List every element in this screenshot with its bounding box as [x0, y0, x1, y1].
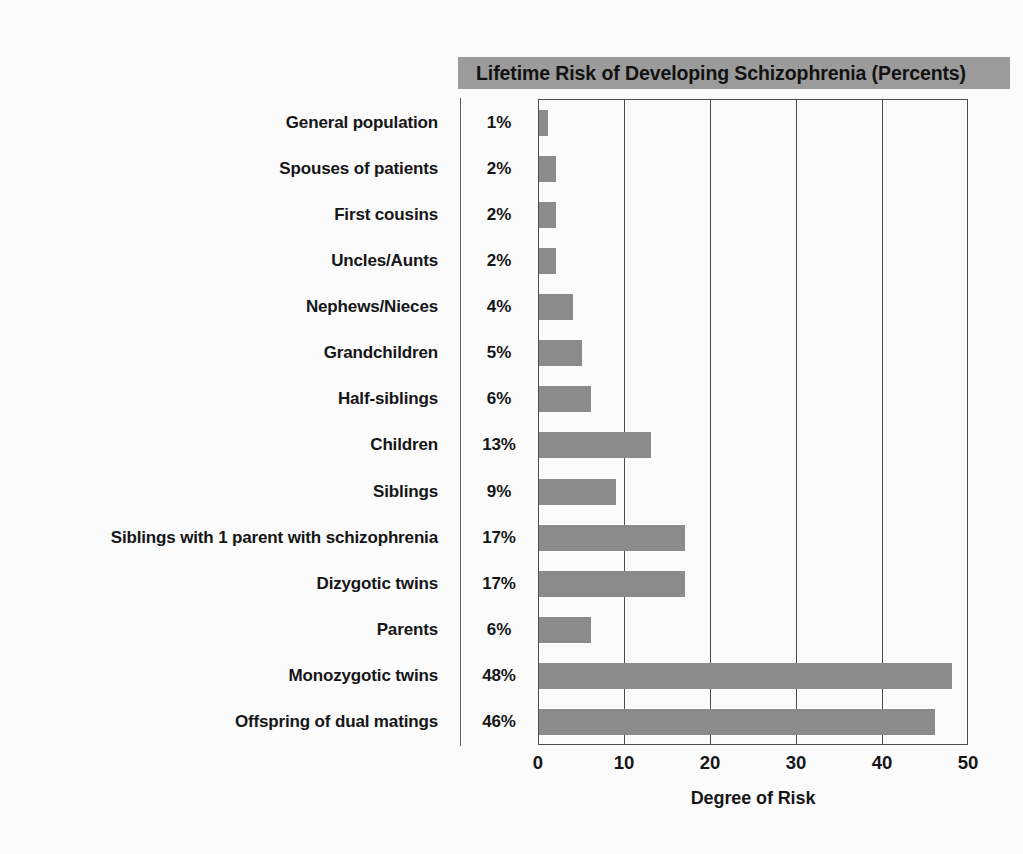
category-label: Children	[370, 422, 438, 468]
category-label: General population	[286, 100, 438, 146]
category-label: First cousins	[334, 192, 438, 238]
category-label: Spouses of patients	[279, 146, 438, 192]
value-label: 4%	[468, 284, 530, 330]
value-label: 6%	[468, 607, 530, 653]
x-axis-tick: 50	[938, 752, 998, 774]
bar	[539, 709, 935, 735]
value-label: 1%	[468, 100, 530, 146]
bar-row: Spouses of patients2%	[0, 146, 1023, 192]
bar-row: Siblings with 1 parent with schizophreni…	[0, 515, 1023, 561]
x-axis-tick: 30	[766, 752, 826, 774]
bar	[539, 571, 685, 597]
value-label: 6%	[468, 376, 530, 422]
value-label: 13%	[468, 422, 530, 468]
chart-title: Lifetime Risk of Developing Schizophreni…	[476, 62, 966, 85]
bar-row: Dizygotic twins17%	[0, 561, 1023, 607]
bar	[539, 340, 582, 366]
value-label: 9%	[468, 469, 530, 515]
x-axis-tick: 10	[594, 752, 654, 774]
category-label: Half-siblings	[338, 376, 438, 422]
bar	[539, 386, 591, 412]
value-label: 17%	[468, 515, 530, 561]
value-label: 2%	[468, 192, 530, 238]
x-axis-tick: 20	[680, 752, 740, 774]
bar-row: Siblings9%	[0, 469, 1023, 515]
bar	[539, 525, 685, 551]
bar	[539, 248, 556, 274]
bar-row: Offspring of dual matings46%	[0, 699, 1023, 745]
category-label: Dizygotic twins	[317, 561, 438, 607]
category-label: Monozygotic twins	[289, 653, 439, 699]
bar	[539, 479, 616, 505]
bar-row: Monozygotic twins48%	[0, 653, 1023, 699]
chart-figure: Lifetime Risk of Developing Schizophreni…	[0, 0, 1023, 854]
bar	[539, 110, 548, 136]
bar-row: First cousins2%	[0, 192, 1023, 238]
value-label: 46%	[468, 699, 530, 745]
x-axis-label: Degree of Risk	[538, 788, 968, 809]
category-label: Parents	[377, 607, 438, 653]
bar	[539, 432, 651, 458]
value-label: 5%	[468, 330, 530, 376]
category-label: Siblings	[373, 469, 438, 515]
value-label: 2%	[468, 146, 530, 192]
category-label: Grandchildren	[324, 330, 438, 376]
bar-row: Grandchildren5%	[0, 330, 1023, 376]
value-label: 48%	[468, 653, 530, 699]
bar-row: Parents6%	[0, 607, 1023, 653]
bar-row: Nephews/Nieces4%	[0, 284, 1023, 330]
category-label: Siblings with 1 parent with schizophreni…	[111, 515, 438, 561]
bar-row: Children13%	[0, 422, 1023, 468]
bar	[539, 156, 556, 182]
bar	[539, 202, 556, 228]
bar-row-group: General population1%Spouses of patients2…	[0, 100, 1023, 745]
category-label: Offspring of dual matings	[235, 699, 438, 745]
bar	[539, 617, 591, 643]
x-axis-tick: 0	[508, 752, 568, 774]
x-axis-tick: 40	[852, 752, 912, 774]
bar-row: General population1%	[0, 100, 1023, 146]
category-label: Uncles/Aunts	[331, 238, 438, 284]
bar-row: Half-siblings6%	[0, 376, 1023, 422]
bar	[539, 663, 952, 689]
chart-title-band: Lifetime Risk of Developing Schizophreni…	[458, 57, 1010, 89]
value-label: 2%	[468, 238, 530, 284]
value-label: 17%	[468, 561, 530, 607]
bar-row: Uncles/Aunts2%	[0, 238, 1023, 284]
category-label: Nephews/Nieces	[306, 284, 438, 330]
bar	[539, 294, 573, 320]
